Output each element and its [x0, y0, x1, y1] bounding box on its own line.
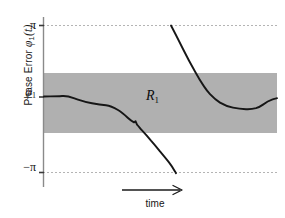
time-axis-label: time — [120, 198, 190, 209]
y-axis-title-subscript: 1 — [27, 36, 36, 40]
region-r1-band — [43, 73, 277, 133]
y-axis-title-symbol: φ — [22, 40, 34, 47]
y-tick-label-neg-pi: −π — [4, 160, 36, 175]
region-r1-label-subscript: 1 — [155, 95, 160, 105]
y-tick-label-phi1-subscript: 1 — [32, 91, 36, 100]
phase-error-figure: Phase Error φ1(t) π φ1 −π R1 time — [0, 0, 285, 218]
y-tick-label-pi: π — [8, 18, 36, 33]
y-tick-label-phi1: φ1 — [6, 85, 36, 100]
plot-canvas — [0, 0, 285, 218]
y-tick-label-phi1-symbol: φ — [25, 85, 32, 99]
region-r1-label: R1 — [146, 88, 159, 105]
region-r1-label-letter: R — [146, 88, 155, 103]
